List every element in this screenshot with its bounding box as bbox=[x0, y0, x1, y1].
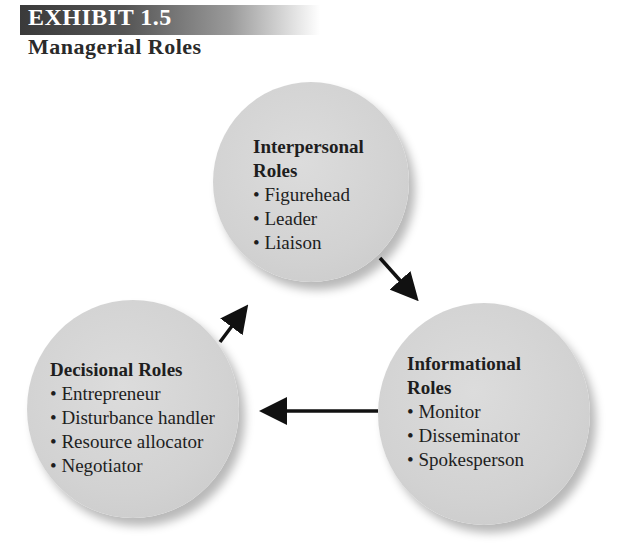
role-item: Disseminator bbox=[407, 424, 524, 448]
role-item: Monitor bbox=[407, 400, 524, 424]
informational-heading-2: Roles bbox=[407, 376, 524, 400]
informational-heading-1: Informational bbox=[407, 352, 524, 376]
arrow-interpersonal-to-informational bbox=[380, 258, 414, 296]
role-item: Entrepreneur bbox=[50, 382, 215, 406]
role-item: Liaison bbox=[253, 231, 364, 255]
role-item: Leader bbox=[253, 207, 364, 231]
role-item: Figurehead bbox=[253, 183, 364, 207]
arrow-decisional-to-interpersonal bbox=[220, 310, 244, 342]
interpersonal-heading-1: Interpersonal bbox=[253, 135, 364, 159]
role-item: Resource allocator bbox=[50, 430, 215, 454]
decisional-roles-text: Decisional Roles Entrepreneur Disturbanc… bbox=[50, 358, 215, 478]
role-item: Negotiator bbox=[50, 454, 215, 478]
interpersonal-heading-2: Roles bbox=[253, 159, 364, 183]
decisional-heading: Decisional Roles bbox=[50, 358, 215, 382]
informational-roles-text: Informational Roles Monitor Disseminator… bbox=[407, 352, 524, 472]
role-item: Disturbance handler bbox=[50, 406, 215, 430]
interpersonal-roles-text: Interpersonal Roles Figurehead Leader Li… bbox=[253, 135, 364, 255]
role-item: Spokesperson bbox=[407, 448, 524, 472]
